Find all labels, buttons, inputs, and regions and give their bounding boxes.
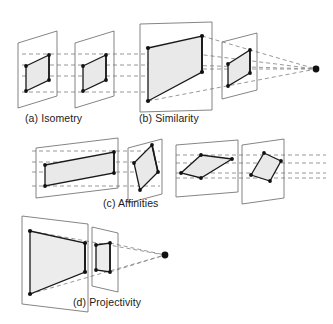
panel-isometry [18,31,152,108]
caption-similarity: (b) Similarity [139,112,199,124]
similarity-shape-right [228,50,250,86]
projectivity-shape-near [30,231,85,294]
panel-affinities-right [176,139,326,204]
transformation-hierarchy-diagram [0,0,333,324]
affinities-shape-b2 [251,153,281,181]
affinities-shape-a1 [45,152,114,186]
similarity-shape-left [148,36,202,101]
projectivity-vanishing-point [162,252,169,259]
caption-isometry: (a) Isometry [25,112,82,124]
affinities-shape-b1 [181,155,232,178]
isometry-shape-right [83,55,106,91]
affinities-shape-a2 [134,145,158,190]
figure-root: (a) Isometry (b) Similarity (c) Affiniti… [0,0,333,324]
caption-projectivity: (d) Projectivity [73,296,141,308]
caption-affinities: (c) Affinities [103,197,158,209]
projectivity-shape-far [96,243,110,272]
panel-similarity [140,22,319,112]
isometry-shape-left [26,55,49,91]
similarity-vanishing-point [313,66,320,73]
panel-affinities-left [32,138,162,203]
